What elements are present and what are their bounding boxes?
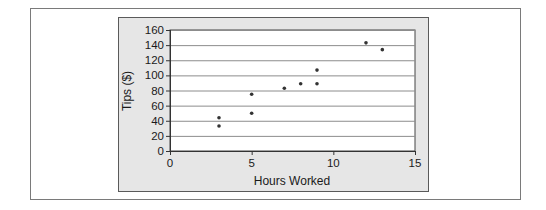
data-point [364, 41, 368, 45]
data-point [283, 86, 287, 90]
x-tick-label: 10 [327, 157, 340, 169]
data-point [315, 68, 319, 72]
y-tick-label: 80 [151, 85, 164, 97]
x-tick-label: 0 [167, 157, 173, 169]
data-point [250, 111, 254, 115]
x-tick-label: 15 [409, 157, 422, 169]
data-point [315, 82, 319, 86]
y-tick-label: 20 [151, 130, 164, 142]
x-tick-label: 5 [248, 157, 254, 169]
y-tick-label: 140 [145, 39, 164, 51]
y-tick-label: 40 [151, 115, 164, 127]
data-point [299, 82, 303, 86]
y-axis-ticks: 020406080100120140160 [145, 24, 170, 157]
y-tick-label: 0 [158, 145, 164, 157]
y-axis-title: Tips ($) [120, 71, 134, 111]
y-tick-label: 100 [145, 69, 164, 81]
data-point [381, 48, 385, 52]
x-axis-ticks: 051015 [167, 151, 422, 169]
data-point [217, 116, 221, 120]
data-point [217, 124, 221, 128]
data-point [250, 92, 254, 96]
y-tick-label: 160 [145, 24, 164, 36]
y-tick-label: 120 [145, 54, 164, 66]
x-axis-title: Hours Worked [254, 174, 330, 188]
y-tick-label: 60 [151, 100, 164, 112]
scatter-chart: 020406080100120140160 051015 Hours Worke… [0, 0, 546, 210]
